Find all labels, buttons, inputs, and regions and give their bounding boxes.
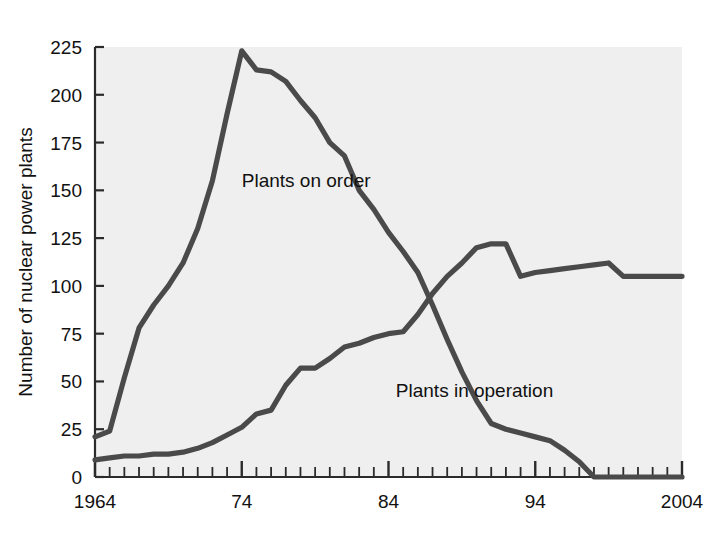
y-tick-label: 175 [50, 133, 82, 154]
x-tick-label: 2004 [661, 491, 704, 512]
y-tick-label: 125 [50, 228, 82, 249]
figure-container: 0255075100125150175200225 19647484942004… [0, 0, 715, 543]
y-tick-label: 50 [61, 371, 82, 392]
x-tick-label: 84 [378, 491, 400, 512]
y-tick-label: 225 [50, 37, 82, 58]
annotation-label-plants-in-operation: Plants in operation [396, 380, 553, 401]
x-tick-label: 74 [231, 491, 253, 512]
y-tick-label: 0 [71, 467, 82, 488]
nuclear-power-plants-line-chart: 0255075100125150175200225 19647484942004… [0, 0, 715, 543]
annotation-label-plants-on-order: Plants on order [242, 170, 372, 191]
y-tick-label: 25 [61, 419, 82, 440]
y-tick-label: 200 [50, 85, 82, 106]
x-tick-label: 94 [525, 491, 547, 512]
y-tick-label: 100 [50, 276, 82, 297]
y-tick-label: 150 [50, 180, 82, 201]
y-tick-label: 75 [61, 324, 82, 345]
x-tick-label: 1964 [74, 491, 117, 512]
y-axis-title: Number of nuclear power plants [15, 127, 36, 396]
